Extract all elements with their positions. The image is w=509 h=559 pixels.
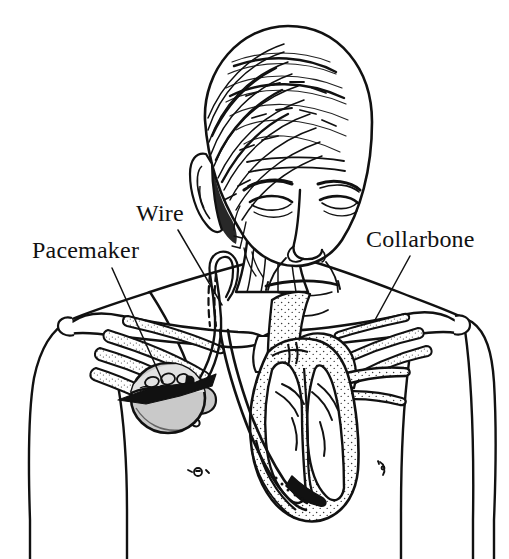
head [205, 26, 372, 266]
label-collarbone: Collarbone [366, 226, 475, 253]
label-wire: Wire [136, 200, 184, 227]
label-pacemaker: Pacemaker [32, 237, 139, 264]
pacemaker-figure: Pacemaker Wire Collarbone [0, 0, 509, 559]
anatomical-illustration [0, 0, 509, 559]
